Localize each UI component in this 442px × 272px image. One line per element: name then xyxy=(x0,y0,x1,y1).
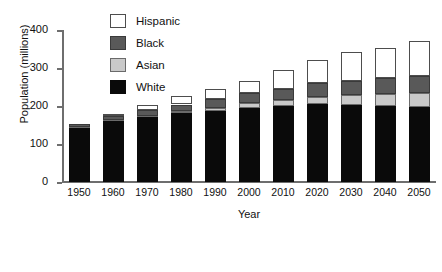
bar-2020 xyxy=(307,30,328,182)
bar-segment-white xyxy=(205,111,226,182)
bar-1990 xyxy=(205,30,226,182)
y-tick: 200 xyxy=(0,100,62,111)
bar-segment-hispanic xyxy=(137,105,158,110)
bar-segment-hispanic xyxy=(205,89,226,100)
y-tick-mark xyxy=(57,182,62,184)
stacked-bar-chart: 0100200300400 Population (millions) 1950… xyxy=(0,0,442,272)
bar-segment-white xyxy=(307,104,328,182)
bar-2030 xyxy=(341,30,362,182)
y-tick: 400 xyxy=(0,24,62,35)
legend-label: White xyxy=(136,81,165,93)
bar-segment-asian xyxy=(375,94,396,106)
bar-segment-hispanic xyxy=(307,60,328,84)
x-tick-label-2050: 2050 xyxy=(399,186,439,198)
y-tick: 0 xyxy=(0,176,62,187)
bar-segment-asian xyxy=(205,108,226,111)
bar-segment-black xyxy=(409,76,430,94)
legend-label: Hispanic xyxy=(136,15,180,27)
bar-segment-hispanic xyxy=(409,41,430,75)
bar-segment-black xyxy=(69,124,90,127)
bar-2010 xyxy=(273,30,294,182)
bar-segment-black xyxy=(171,105,192,112)
bar-segment-black xyxy=(341,81,362,96)
bar-segment-white xyxy=(409,107,430,182)
bar-segment-white xyxy=(103,121,124,182)
x-axis-title: Year xyxy=(62,208,436,220)
bar-segment-black xyxy=(375,78,396,94)
y-tick-label: 0 xyxy=(16,176,48,187)
bar-2050 xyxy=(409,30,430,182)
bar-segment-black xyxy=(307,83,328,96)
y-tick: 300 xyxy=(0,62,62,73)
bar-segment-hispanic xyxy=(239,81,260,94)
bar-segment-asian xyxy=(239,103,260,107)
legend-swatch-icon xyxy=(110,58,126,72)
y-tick-mark xyxy=(57,106,62,108)
bar-segment-hispanic xyxy=(375,48,396,78)
bar-1950 xyxy=(69,30,90,182)
legend-label: Asian xyxy=(136,59,165,71)
legend-swatch-icon xyxy=(110,14,126,28)
bar-segment-hispanic xyxy=(103,114,124,116)
chart-legend: HispanicBlackAsianWhite xyxy=(110,10,180,98)
bar-2040 xyxy=(375,30,396,182)
legend-swatch-icon xyxy=(110,80,126,94)
bar-segment-asian xyxy=(171,111,192,113)
bar-segment-asian xyxy=(341,95,362,105)
legend-item-white: White xyxy=(110,76,180,98)
y-tick-mark xyxy=(57,68,62,70)
bar-2000 xyxy=(239,30,260,182)
bar-segment-black xyxy=(137,110,158,116)
bar-segment-white xyxy=(341,105,362,182)
legend-item-hispanic: Hispanic xyxy=(110,10,180,32)
y-tick-mark xyxy=(57,30,62,32)
y-tick-mark xyxy=(57,144,62,146)
bar-segment-white xyxy=(375,106,396,182)
bar-segment-hispanic xyxy=(273,70,294,88)
bar-segment-white xyxy=(239,108,260,182)
bar-segment-white xyxy=(137,117,158,182)
bar-segment-white xyxy=(171,113,192,182)
bar-segment-white xyxy=(69,128,90,182)
y-tick: 100 xyxy=(0,138,62,149)
bar-segment-asian xyxy=(307,97,328,105)
y-axis-title: Population (millions) xyxy=(18,4,30,144)
bar-segment-black xyxy=(239,93,260,103)
bar-segment-hispanic xyxy=(341,52,362,81)
bar-segment-black xyxy=(273,89,294,100)
bar-segment-black xyxy=(103,116,124,120)
bar-segment-black xyxy=(205,99,226,107)
bar-segment-white xyxy=(273,106,294,182)
legend-item-asian: Asian xyxy=(110,54,180,76)
legend-item-black: Black xyxy=(110,32,180,54)
bar-segment-asian xyxy=(273,100,294,106)
bar-segment-asian xyxy=(409,93,430,107)
legend-label: Black xyxy=(136,37,164,49)
legend-swatch-icon xyxy=(110,36,126,50)
